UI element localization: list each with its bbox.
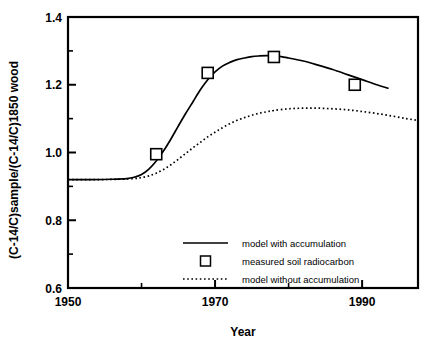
- x-tick-label: 1950: [55, 295, 82, 309]
- x-tick-label: 1970: [202, 295, 229, 309]
- data-point-marker: [349, 79, 360, 90]
- data-point-marker: [151, 149, 162, 160]
- radiocarbon-line-chart: 0.60.81.01.21.4 195019701990 Year (C-14/…: [0, 0, 434, 344]
- y-axis-title: (C-14/C)sample/(C-14/C)1850 wood: [7, 61, 21, 259]
- data-series-layer: [68, 51, 418, 179]
- data-point-marker: [202, 67, 213, 78]
- legend-label: model with accumulation: [242, 238, 346, 249]
- series-model-with-accumulation: [68, 56, 388, 180]
- y-axis-tick-labels: 0.60.81.01.21.4: [45, 11, 62, 296]
- data-point-marker: [268, 51, 279, 62]
- x-axis-title: Year: [230, 325, 256, 339]
- series-model-without-accumulation: [68, 108, 418, 180]
- y-tick-label: 0.8: [45, 214, 62, 228]
- x-axis-tick-labels: 195019701990: [55, 295, 376, 309]
- legend-label: measured soil radiocarbon: [242, 256, 354, 267]
- y-axis-ticks: [68, 17, 76, 288]
- y-tick-label: 1.2: [45, 78, 62, 92]
- chart-legend: model with accumulationmeasured soil rad…: [183, 238, 359, 285]
- y-tick-label: 1.4: [45, 11, 62, 25]
- legend-swatch-open-square: [201, 256, 211, 266]
- chart-figure: 0.60.81.01.21.4 195019701990 Year (C-14/…: [0, 0, 434, 344]
- y-tick-label: 0.6: [45, 282, 62, 296]
- y-tick-label: 1.0: [45, 146, 62, 160]
- x-tick-label: 1990: [349, 295, 376, 309]
- legend-label: model without accumulation: [242, 274, 359, 285]
